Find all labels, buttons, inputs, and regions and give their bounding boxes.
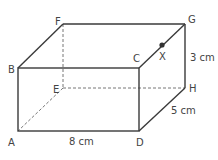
label-a: A — [8, 137, 15, 148]
visible-edges — [18, 24, 185, 131]
label-x: X — [159, 51, 166, 62]
edge-BF — [18, 24, 63, 68]
front-face — [18, 68, 139, 131]
label-d: D — [136, 137, 144, 148]
label-width: 5 cm — [171, 105, 196, 116]
label-g: G — [188, 14, 196, 25]
label-length: 8 cm — [69, 136, 94, 147]
label-b: B — [8, 64, 15, 75]
label-h: H — [189, 83, 197, 94]
hidden-edges — [18, 24, 185, 131]
label-e: E — [53, 84, 59, 95]
point-x-marker — [159, 42, 164, 47]
label-height: 3 cm — [190, 52, 215, 63]
label-f: F — [55, 16, 61, 27]
label-c: C — [133, 53, 140, 64]
cuboid-diagram: A B C D E F G H X 8 cm 5 cm 3 cm — [0, 0, 218, 160]
